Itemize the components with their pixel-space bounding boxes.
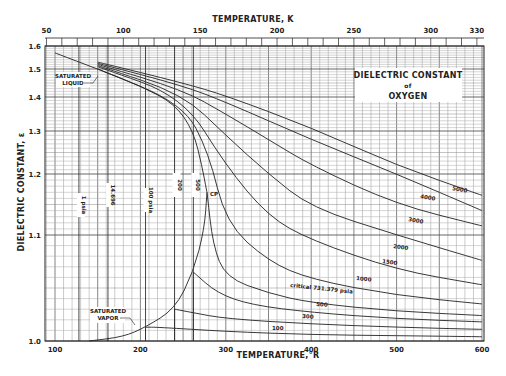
saturated-liquid-label: SATURATED — [55, 73, 92, 79]
y-tick-1: 1.0 — [29, 338, 42, 346]
x-tick-300: 300 — [218, 346, 233, 354]
x-tick-400: 400 — [304, 346, 319, 354]
curve-label: 500 — [316, 301, 328, 308]
x2-tick-300: 300 — [423, 27, 438, 35]
x2-tick-150: 150 — [193, 27, 208, 35]
x2-tick-100: 100 — [116, 27, 131, 35]
isobar-label-vertical: 200 — [177, 179, 183, 191]
x2-tick-50: 50 — [42, 27, 52, 35]
curve-7 — [193, 272, 482, 322]
curve-label: 3000 — [408, 216, 424, 225]
y-tick-1.3: 1.3 — [29, 128, 42, 136]
x-tick-500: 500 — [389, 346, 404, 354]
y-tick-1.1: 1.1 — [29, 232, 42, 240]
curve-label: critical 731.379 psia — [290, 282, 354, 296]
isobar-label-vertical: 100 psia — [147, 187, 154, 213]
isobar-label-vertical: 14.696 — [110, 184, 116, 205]
chart-svg: DIELECTRIC CONSTANT of OXYGEN TEMPERATUR… — [0, 0, 506, 376]
curve-label: 300 — [302, 313, 314, 320]
isobar-label-vertical: 1 psia — [80, 196, 87, 215]
dielectric-constant-chart: DIELECTRIC CONSTANT of OXYGEN TEMPERATUR… — [0, 0, 506, 376]
x2-tick-330: 330 — [470, 27, 485, 35]
x2-tick-250: 250 — [347, 27, 362, 35]
y-tick-1.4: 1.4 — [29, 94, 42, 102]
curve-label: 2000 — [393, 243, 409, 251]
chart-title-line3: OXYGEN — [388, 92, 427, 101]
isobar-label-vertical: 500 — [195, 179, 201, 191]
curve-9 — [98, 69, 482, 304]
y-tick-1.2: 1.2 — [29, 171, 42, 179]
curve-5 — [146, 327, 483, 337]
saturated-liquid-label-2: LIQUID — [62, 80, 84, 86]
x2-axis-label: TEMPERATURE, K — [212, 15, 294, 24]
chart-title-line2: of — [404, 82, 411, 89]
y-axis-label: DIELECTRIC CONSTANT, ε — [17, 133, 26, 252]
y-axis-tick-labels: 1.01.11.21.31.41.51.6 — [29, 43, 42, 346]
y-tick-1.6: 1.6 — [29, 43, 42, 51]
x2-tick-200: 200 — [270, 27, 285, 35]
cp-label: CP — [210, 191, 218, 197]
saturated-vapor-label: SATURATED — [90, 308, 127, 314]
top-axis-ticks — [45, 38, 484, 46]
curve-label: 100 — [272, 325, 284, 331]
chart-title-line1: DIELECTRIC CONSTANT — [354, 71, 463, 80]
x2-axis-tick-labels: 50100150200250300330 — [42, 27, 485, 35]
x-tick-200: 200 — [133, 346, 148, 354]
x-tick-100: 100 — [48, 346, 63, 354]
x-tick-600: 600 — [475, 346, 490, 354]
y-tick-1.5: 1.5 — [29, 66, 42, 74]
saturated-vapor-label-2: VAPOR — [97, 315, 119, 321]
curve-label: 1000 — [356, 275, 372, 283]
